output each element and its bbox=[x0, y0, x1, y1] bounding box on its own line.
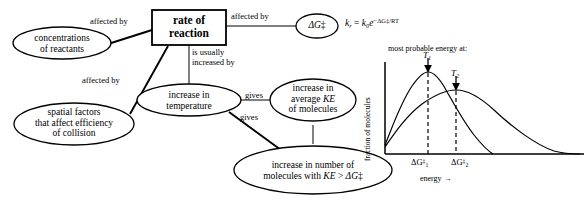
number-molecules-line2: molecules with KE > ΔG‡ bbox=[234, 171, 392, 182]
edge-label-concentrations: affected by bbox=[90, 17, 128, 27]
chart-tick-dg1-base: ΔG bbox=[411, 157, 423, 167]
node-concentrations-of-reactants-label: concentrations of reactants bbox=[13, 33, 111, 54]
spatial-factors-line2: that affect efficiency bbox=[14, 118, 134, 129]
edge-label-number-molecules-text: gives bbox=[240, 112, 258, 122]
chart bbox=[385, 58, 584, 154]
average-ke-line2: average KE bbox=[270, 94, 356, 105]
edge-label-delta-g-text: affected by bbox=[231, 11, 269, 21]
chart-curve-T1 bbox=[385, 72, 493, 154]
edge-label-average-ke-text: gives bbox=[245, 90, 263, 100]
concentrations-line2: of reactants bbox=[13, 44, 111, 55]
chart-tick-dg2-base: ΔG bbox=[451, 157, 463, 167]
equation-exponent: −ΔG‡/RT bbox=[374, 17, 399, 24]
average-ke-line2-text: average KE bbox=[291, 94, 335, 104]
spatial-factors-line1: spatial factors bbox=[14, 107, 134, 118]
equation-equals: = bbox=[352, 18, 362, 28]
edge-label-average-ke: gives bbox=[245, 91, 263, 101]
spatial-factors-line3: of collision bbox=[14, 128, 134, 139]
edge-label-concentrations-text: affected by bbox=[90, 16, 128, 26]
chart-xlabel-text: energy → bbox=[420, 174, 452, 183]
chart-ylabel: fraction of molecules bbox=[363, 97, 372, 161]
rate-of-reaction-line1: rate of bbox=[152, 14, 226, 27]
arrhenius-equation: kr = k0e−ΔG‡/RT bbox=[345, 17, 399, 29]
chart-xlabel: energy → bbox=[420, 174, 452, 183]
chart-annotation-T2: T2 bbox=[451, 68, 459, 79]
increase-temperature-line1: increase in bbox=[137, 90, 241, 101]
edge-concentrations-line bbox=[108, 30, 152, 44]
chart-annotation-T1-sub: 1 bbox=[428, 55, 431, 61]
chart-annotation-T1: T1 bbox=[423, 50, 431, 61]
node-increase-in-temperature-label: increase in temperature bbox=[137, 90, 241, 111]
edge-label-spatial: affected by bbox=[82, 76, 120, 86]
average-ke-line1: increase in bbox=[270, 83, 356, 94]
chart-tick-dg2-sub: 2 bbox=[466, 162, 469, 168]
node-delta-g-label: ΔG‡ bbox=[296, 20, 338, 31]
node-increase-in-number-of-molecules-label: increase in number of molecules with KE … bbox=[234, 160, 392, 181]
number-molecules-line1: increase in number of bbox=[234, 160, 392, 171]
rate-of-reaction-line2: reaction bbox=[152, 27, 226, 40]
chart-tick-dg1: ΔG‡1 bbox=[411, 157, 428, 168]
edge-label-temperature-line2: increased by bbox=[192, 58, 235, 68]
node-spatial-factors-label: spatial factors that affect efficiency o… bbox=[14, 107, 134, 139]
chart-tick-dg1-sub: 1 bbox=[426, 162, 429, 168]
increase-temperature-line2: temperature bbox=[137, 101, 241, 112]
edge-label-number-molecules: gives bbox=[240, 113, 258, 123]
chart-annotation-T2-sub: 2 bbox=[456, 73, 459, 79]
average-ke-line3: of molecules bbox=[270, 104, 356, 115]
edge-label-delta-g: affected by bbox=[231, 12, 269, 22]
edge-label-temperature: is usually increased by bbox=[192, 48, 235, 68]
edge-label-spatial-text: affected by bbox=[82, 75, 120, 85]
diagram-canvas: rate of reaction concentrations of react… bbox=[0, 0, 588, 210]
concentrations-line1: concentrations bbox=[13, 33, 111, 44]
chart-ylabel-text: fraction of molecules bbox=[363, 97, 372, 161]
delta-g-text: ΔG‡ bbox=[308, 20, 325, 30]
chart-tick-dg2: ΔG‡2 bbox=[451, 157, 468, 168]
node-increase-in-average-ke-label: increase in average KE of molecules bbox=[270, 83, 356, 115]
node-rate-of-reaction-label: rate of reaction bbox=[152, 14, 226, 40]
